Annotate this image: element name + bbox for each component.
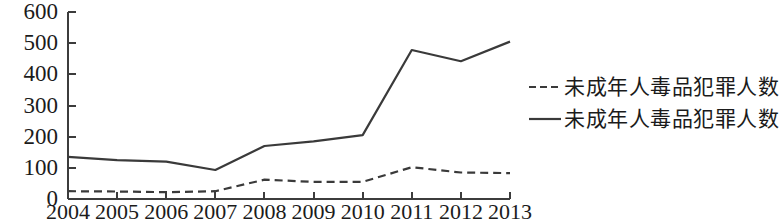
series-line-dashed bbox=[68, 167, 510, 192]
solid-line-marker bbox=[528, 112, 562, 126]
y-axis-tick-label: 200 bbox=[2, 125, 58, 148]
x-axis-tick-label: 2005 bbox=[91, 201, 143, 223]
x-axis-tick-label: 2008 bbox=[238, 201, 290, 223]
y-axis-tick-label: 100 bbox=[2, 156, 58, 179]
legend-entry-solid: 未成年人毒品犯罪人数 bbox=[528, 108, 779, 129]
y-axis-tick-label: 300 bbox=[2, 94, 58, 117]
x-axis-tick-label: 2009 bbox=[288, 201, 340, 223]
x-axis-tick-label: 2006 bbox=[140, 201, 192, 223]
x-axis-tick-label: 2010 bbox=[337, 201, 389, 223]
y-axis-tick-label: 600 bbox=[2, 0, 58, 23]
x-axis-tick-label: 2013 bbox=[484, 201, 536, 223]
legend-label-dashed: 未成年人毒品犯罪人数 bbox=[564, 76, 779, 97]
x-axis-tick-label: 2007 bbox=[189, 201, 241, 223]
y-axis-tick-label: 500 bbox=[2, 31, 58, 54]
dashed-line-marker bbox=[528, 80, 562, 94]
y-axis-tick-label: 400 bbox=[2, 62, 58, 85]
legend-entry-dashed: 未成年人毒品犯罪人数 bbox=[528, 76, 779, 97]
series-line-solid bbox=[68, 42, 510, 170]
x-axis-tick-label: 2004 bbox=[42, 201, 94, 223]
x-axis-tick-label: 2012 bbox=[435, 201, 487, 223]
x-axis-tick-label: 2011 bbox=[386, 201, 438, 223]
legend-label-solid: 未成年人毒品犯罪人数 bbox=[564, 108, 779, 129]
